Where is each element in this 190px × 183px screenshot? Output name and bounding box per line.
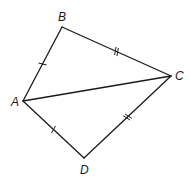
edge-bc <box>62 27 171 76</box>
kite-diagram: A B C D <box>0 0 190 183</box>
vertex-label-d: D <box>80 163 89 177</box>
vertex-labels: A B C D <box>10 10 184 177</box>
vertex-label-c: C <box>175 69 184 83</box>
vertex-label-b: B <box>58 10 66 24</box>
tick-mark <box>51 126 55 133</box>
vertex-label-a: A <box>10 95 19 109</box>
edges <box>23 27 171 158</box>
